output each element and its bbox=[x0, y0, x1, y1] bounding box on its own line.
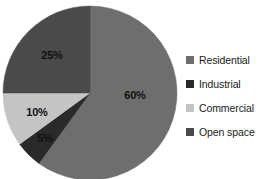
slice-value-label-commercial: 10% bbox=[26, 106, 47, 118]
legend-item-commercial[interactable]: Commercial bbox=[186, 96, 260, 120]
legend-item-label: Commercial bbox=[199, 102, 254, 114]
slice-value-label-industrial: 5% bbox=[37, 132, 53, 144]
chart-legend: ResidentialIndustrialCommercialOpen spac… bbox=[186, 48, 260, 144]
legend-swatch-icon-open-space bbox=[186, 128, 194, 136]
legend-swatch-icon-commercial bbox=[186, 104, 194, 112]
legend-item-residential[interactable]: Residential bbox=[186, 48, 260, 72]
pie-plot-area: 60%5%10%25% bbox=[0, 0, 180, 179]
pie-chart: 60%5%10%25% ResidentialIndustrialCommerc… bbox=[0, 0, 260, 179]
legend-swatch-icon-residential bbox=[186, 56, 194, 64]
legend-item-label: Residential bbox=[199, 54, 250, 66]
slice-value-label-residential: 60% bbox=[124, 89, 145, 101]
legend-item-industrial[interactable]: Industrial bbox=[186, 72, 260, 96]
pie-slice-group bbox=[3, 6, 177, 179]
pie-svg bbox=[0, 0, 180, 179]
slice-value-label-open-space: 25% bbox=[41, 49, 62, 61]
legend-swatch-icon-industrial bbox=[186, 80, 194, 88]
legend-item-label: Open space bbox=[199, 126, 255, 138]
legend-item-label: Industrial bbox=[199, 78, 241, 90]
legend-item-open-space[interactable]: Open space bbox=[186, 120, 260, 144]
